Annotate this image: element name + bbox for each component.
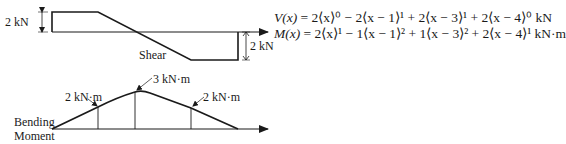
moment-equation-rhs: = 2⟨x⟩¹ − 1⟨x − 1⟩² + 1⟨x − 3⟩² + 2⟨x − … [300, 26, 566, 41]
shear-right-dimension-label: 2 kN [250, 40, 274, 52]
shear-equation-rhs: = 2⟨x⟩⁰ − 2⟨x − 1⟩¹ + 2⟨x − 3⟩¹ + 2⟨x − … [297, 10, 552, 25]
moment-label-right: 2 kN·m [203, 91, 240, 103]
moment-title-line1: Bending [14, 116, 55, 128]
moment-title-line2: Moment [14, 130, 55, 142]
shear-title: Shear [139, 49, 166, 61]
moment-equation-lhs: M(x) [274, 26, 300, 41]
moment-label-left: 2 kN·m [65, 91, 102, 103]
moment-label-peak: 3 kN·m [153, 73, 190, 85]
moment-equation: M(x) = 2⟨x⟩¹ − 1⟨x − 1⟩² + 1⟨x − 3⟩² + 2… [274, 26, 566, 41]
shear-equation-lhs: V(x) [274, 10, 297, 25]
shear-equation: V(x) = 2⟨x⟩⁰ − 2⟨x − 1⟩¹ + 2⟨x − 3⟩¹ + 2… [274, 10, 552, 25]
shear-left-dimension-label: 2 kN [5, 16, 29, 28]
